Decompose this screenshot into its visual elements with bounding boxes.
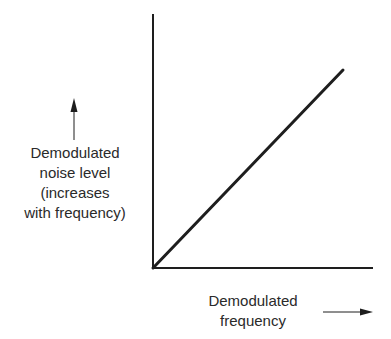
y-axis-label-line: with frequency) [0,203,150,223]
y-axis-label-line: noise level [0,163,150,183]
y-axis-label: Demodulated noise level (increases with … [0,143,150,223]
y-axis-label-line: Demodulated [0,143,150,163]
right-arrow-icon [323,309,373,316]
up-arrow-icon [71,98,78,140]
x-axis-label: Demodulated frequency [183,291,323,331]
x-axis-label-line: Demodulated [183,291,323,311]
x-axis-label-line: frequency [183,311,323,331]
y-axis-label-line: (increases [0,183,150,203]
noise-level-line [153,70,343,268]
